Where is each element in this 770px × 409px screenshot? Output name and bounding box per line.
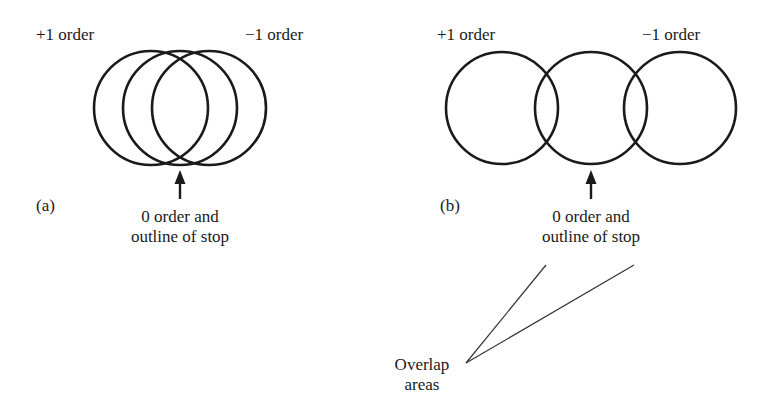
plus-one-order-circle-b	[446, 52, 558, 164]
zero-order-line1-b: 0 order and	[521, 207, 661, 227]
plus-one-order-label-a: +1 order	[36, 25, 94, 45]
zero-order-line2-b: outline of stop	[521, 227, 661, 247]
panel-a-label: (a)	[36, 196, 55, 216]
panel-b-circles	[446, 52, 736, 164]
panel-a-circles	[94, 51, 266, 165]
arrow-icon-a	[175, 170, 186, 199]
zero-order-circle-a	[123, 51, 237, 165]
diffraction-diagram	[0, 0, 770, 409]
zero-order-label-a: 0 order and outline of stop	[110, 207, 250, 247]
overlap-line1: Overlap	[382, 355, 462, 375]
plus-one-order-label-b: +1 order	[437, 25, 495, 45]
minus-one-order-circle-b	[624, 52, 736, 164]
overlap-line2: areas	[382, 375, 462, 395]
minus-one-order-label-a: −1 order	[245, 25, 303, 45]
arrow-icon-b	[586, 170, 597, 199]
zero-order-line2-a: outline of stop	[110, 227, 250, 247]
minus-one-order-label-b: −1 order	[642, 25, 700, 45]
zero-order-label-b: 0 order and outline of stop	[521, 207, 661, 247]
panel-b-label: (b)	[440, 196, 460, 216]
overlap-areas-label: Overlap areas	[382, 355, 462, 395]
overlap-leader-lines	[466, 265, 634, 363]
zero-order-circle-b	[535, 52, 647, 164]
zero-order-line1-a: 0 order and	[110, 207, 250, 227]
